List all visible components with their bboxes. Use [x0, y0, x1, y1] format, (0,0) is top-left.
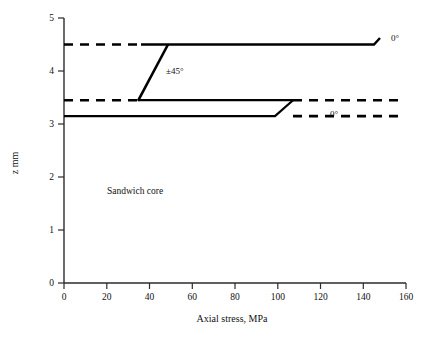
x-tick-label-0: 0 — [62, 292, 67, 302]
y-tick-label-3: 3 — [44, 119, 54, 129]
y-axis-ticks — [58, 18, 64, 283]
figure-container: 0 20 40 60 80 100 120 140 160 0 1 2 3 4 … — [0, 0, 434, 340]
x-tick-label-160: 160 — [399, 292, 413, 302]
x-tick-label-80: 80 — [230, 292, 240, 302]
y-axis-title: z mm — [9, 152, 20, 175]
annotation-sandwich-core: Sandwich core — [107, 186, 163, 196]
annotation-zero-degree-top: 0° — [391, 33, 399, 43]
x-tick-label-100: 100 — [271, 292, 285, 302]
x-axis-ticks — [64, 283, 406, 289]
annotation-plus-minus-45: ±45° — [166, 66, 184, 76]
y-tick-label-1: 1 — [44, 225, 54, 235]
y-tick-label-5: 5 — [44, 13, 54, 23]
x-tick-label-120: 120 — [313, 292, 327, 302]
x-tick-label-140: 140 — [356, 292, 370, 302]
x-tick-label-40: 40 — [145, 292, 155, 302]
y-tick-label-0: 0 — [44, 278, 54, 288]
series-zero-lower-solid — [64, 100, 293, 116]
series-pm45-ramp — [138, 45, 168, 101]
x-axis-title: Axial stress, MPa — [197, 313, 268, 324]
annotation-zero-degree-mid: 0° — [330, 109, 338, 119]
chart-canvas — [0, 0, 434, 340]
x-tick-label-60: 60 — [188, 292, 198, 302]
axis-lines — [64, 18, 406, 283]
y-tick-label-2: 2 — [44, 172, 54, 182]
x-tick-label-20: 20 — [102, 292, 112, 302]
y-tick-label-4: 4 — [44, 66, 54, 76]
series-upper-top-solid — [141, 38, 380, 45]
